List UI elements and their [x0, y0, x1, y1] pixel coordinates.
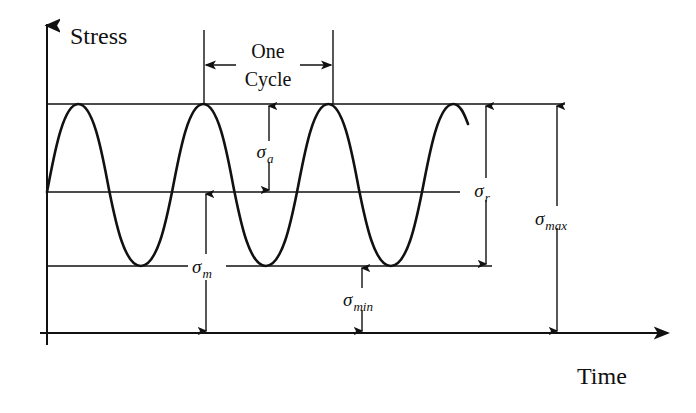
sigma-max-symbol: σ: [535, 208, 545, 229]
diagram-canvas: One Cycle σa σm: [0, 0, 696, 413]
sigma-max-subscript: max: [545, 218, 567, 233]
sigma-min-symbol: σ: [343, 289, 353, 310]
sigma-min-dimension: σmin: [343, 268, 373, 331]
sine-wave-path: [47, 104, 468, 266]
sigma-min-subscript: min: [353, 299, 373, 314]
sigma-r-symbol: σ: [474, 180, 484, 201]
sigma-a-label: σa: [257, 141, 274, 166]
sigma-m-dimension: σm: [188, 194, 226, 331]
sigma-max-dimension: σmax: [535, 106, 567, 331]
cycle-label-line2: Cycle: [245, 68, 292, 91]
stress-waveform: [47, 104, 468, 266]
sigma-a-subscript: a: [267, 151, 274, 166]
sigma-m-symbol: σ: [192, 256, 202, 277]
sigma-m-subscript: m: [202, 266, 211, 281]
sigma-r-subscript: r: [485, 190, 491, 205]
sigma-a-symbol: σ: [257, 141, 267, 162]
sigma-max-label: σmax: [535, 208, 567, 233]
axes: Stress Time: [40, 23, 668, 389]
cycle-label-line1: One: [251, 40, 284, 62]
sigma-min-label: σmin: [343, 289, 373, 314]
reference-level-lines: [47, 104, 565, 266]
x-axis-label: Time: [577, 363, 627, 389]
sigma-a-dimension: σa: [257, 106, 274, 190]
sigma-r-dimension: σr: [474, 106, 490, 264]
y-axis-label: Stress: [70, 23, 127, 49]
stress-cycle-diagram: One Cycle σa σm: [0, 0, 696, 413]
one-cycle-dimension: One Cycle: [206, 40, 331, 92]
sigma-r-label: σr: [474, 180, 490, 205]
